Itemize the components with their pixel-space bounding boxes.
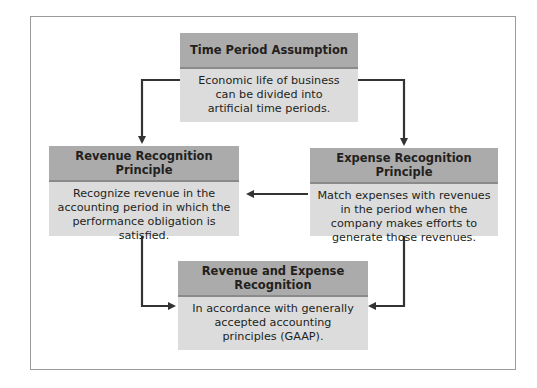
node-body: Match expenses with revenues in the peri… [310, 184, 498, 245]
node-body: Economic life of business can be divided… [180, 69, 358, 116]
node-time-period-assumption: Time Period Assumption Economic life of … [180, 33, 358, 122]
node-body: In accordance with generally accepted ac… [178, 297, 368, 344]
node-title: Revenue Recognition Principle [49, 146, 239, 182]
node-expense-recognition-principle: Expense Recognition Principle Match expe… [310, 148, 498, 236]
node-title: Revenue and Expense Recognition [178, 261, 368, 297]
node-revenue-and-expense-recognition: Revenue and Expense Recognition In accor… [178, 261, 368, 350]
node-title: Time Period Assumption [180, 33, 358, 69]
node-title: Expense Recognition Principle [310, 148, 498, 184]
node-body: Recognize revenue in the accounting peri… [49, 182, 239, 243]
node-revenue-recognition-principle: Revenue Recognition Principle Recognize … [49, 146, 239, 236]
